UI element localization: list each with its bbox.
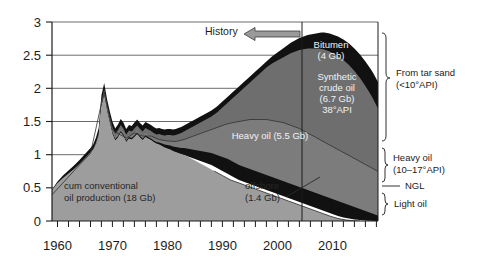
oil-production-stacked-area-chart: 3 2.5 2 1.5 1 0.5 0 1960 1970 1980 1990 …	[0, 0, 486, 266]
label-synthetic-line2: crude oil	[319, 82, 355, 93]
label-ngl: NGL	[405, 180, 425, 191]
label-heavy-oil: Heavy oil (5.5 Gb)	[232, 130, 309, 141]
x-tick-label-1990: 1990	[208, 238, 237, 253]
x-tick-label-2000: 2000	[263, 238, 292, 253]
y-tick-label-1: 1	[34, 147, 41, 162]
label-from-tar-sand-line2: (<10°API)	[396, 79, 438, 90]
y-tick-label-1-5: 1.5	[23, 114, 41, 129]
label-cum-conventional-line2: oil production (18 Gb)	[64, 192, 155, 203]
history-label: History	[205, 25, 238, 37]
label-light-oil: Light oil	[394, 198, 427, 209]
label-synthetic-line3: (6.7 Gb)	[320, 93, 355, 104]
x-tick-label-2010: 2010	[318, 238, 347, 253]
y-tick-label-3: 3	[34, 15, 41, 30]
label-heavy-oil-right-line2: (10–17°API)	[393, 164, 445, 175]
x-tick-label-1960: 1960	[43, 238, 72, 253]
label-bitumen-line2: (4 Gb)	[318, 50, 345, 61]
chart-figure: 3 2.5 2 1.5 1 0.5 0 1960 1970 1980 1990 …	[0, 0, 486, 266]
y-tick-label-0-5: 0.5	[23, 180, 41, 195]
label-from-tar-sand-line1: From tar sand	[396, 67, 455, 78]
label-synthetic-line1: Synthetic	[317, 71, 356, 82]
label-heavy-oil-right-line1: Heavy oil	[393, 152, 432, 163]
y-tick-label-2: 2	[34, 81, 41, 96]
label-synthetic-line4: 38°API	[322, 104, 352, 115]
x-tick-label-1980: 1980	[153, 238, 182, 253]
label-bitumen-line1: Bitumen	[314, 39, 349, 50]
y-tick-label-2-5: 2.5	[23, 48, 41, 63]
label-offshore-line1: offshore	[245, 180, 279, 191]
label-cum-conventional-line1: cum conventional	[64, 180, 138, 191]
x-tick-label-1970: 1970	[98, 238, 127, 253]
label-offshore-line2: (1.4 Gb)	[245, 192, 280, 203]
y-tick-label-0: 0	[34, 214, 41, 229]
